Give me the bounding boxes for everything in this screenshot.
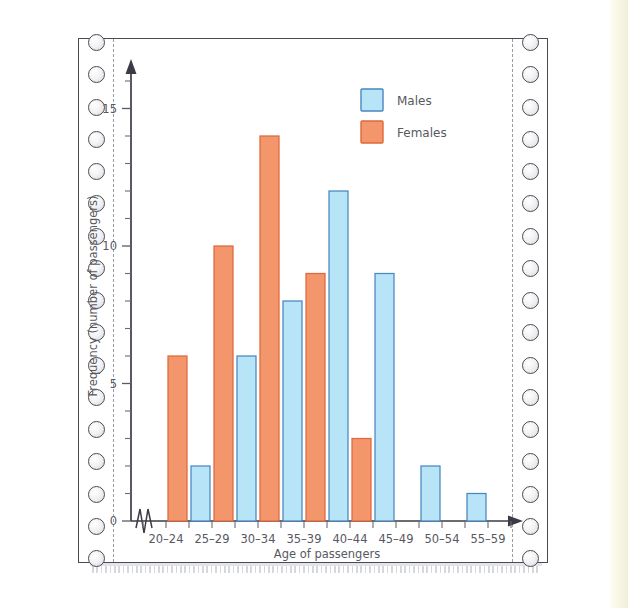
paper-edge-strip-right: [610, 0, 628, 608]
y-axis-tick-labels: 051015: [102, 102, 117, 529]
x-axis-arrowhead: [508, 516, 523, 527]
bar: [214, 246, 233, 521]
bar: [283, 301, 302, 521]
x-axis-tick-labels: 20–2425–2930–3435–3940–4445–4950–5455–59: [148, 532, 505, 546]
female-swatch-icon: [361, 121, 383, 143]
x-tick-label: 35–39: [286, 532, 321, 546]
x-axis-title: Age of passengers: [274, 547, 380, 561]
x-tick-label: 25–29: [194, 532, 229, 546]
bar: [237, 356, 256, 521]
y-tick-label: 10: [102, 239, 117, 253]
male-swatch-icon: [361, 89, 383, 111]
bar: [191, 466, 210, 521]
legend-label: Males: [397, 94, 432, 108]
x-axis-ticks: [143, 521, 511, 528]
x-tick-label: 30–34: [240, 532, 275, 546]
bar-group: [168, 136, 486, 521]
bar: [352, 439, 371, 522]
x-tick-label: 40–44: [332, 532, 367, 546]
chart-svg: 051015 Frequency (number of passengers) …: [79, 39, 549, 564]
x-tick-label: 50–54: [424, 532, 459, 546]
bar: [306, 274, 325, 522]
y-axis: 051015 Frequency (number of passengers): [86, 59, 137, 528]
perforation-tear-strip: [92, 566, 540, 573]
y-axis-arrowhead: [126, 59, 137, 74]
y-axis-title: Frequency (number of passengers): [86, 195, 100, 396]
printer-paper-sheet: 051015 Frequency (number of passengers) …: [78, 38, 548, 563]
y-tick-label: 15: [102, 102, 117, 116]
x-tick-label: 55–59: [470, 532, 505, 546]
y-axis-ticks: [122, 81, 131, 521]
chart-legend: MalesFemales: [361, 89, 447, 143]
legend-label: Females: [397, 126, 447, 140]
bar: [375, 274, 394, 522]
bar: [467, 494, 486, 522]
y-tick-label: 0: [110, 514, 117, 528]
bar: [421, 466, 440, 521]
bar: [260, 136, 279, 521]
page-canvas: 051015 Frequency (number of passengers) …: [0, 0, 628, 608]
x-tick-label: 45–49: [378, 532, 413, 546]
bar: [329, 191, 348, 521]
y-tick-label: 5: [110, 377, 117, 391]
bar: [168, 356, 187, 521]
x-tick-label: 20–24: [148, 532, 183, 546]
histogram-chart: 051015 Frequency (number of passengers) …: [79, 39, 549, 564]
x-axis: 20–2425–2930–3435–3940–4445–4950–5455–59…: [131, 509, 523, 561]
